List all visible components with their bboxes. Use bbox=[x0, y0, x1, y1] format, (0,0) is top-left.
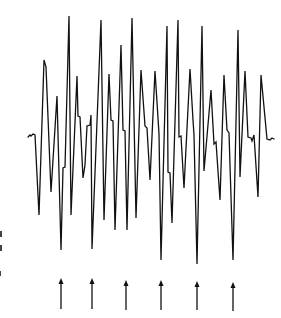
edge-mark bbox=[0, 245, 2, 251]
up-arrow-icon bbox=[231, 282, 236, 311]
edge-mark bbox=[0, 271, 1, 276]
up-arrow-icon bbox=[90, 278, 95, 309]
up-arrow-icon bbox=[159, 280, 164, 310]
edge-marks bbox=[0, 231, 2, 276]
trough-markers bbox=[59, 278, 236, 311]
up-arrow-icon bbox=[59, 278, 64, 309]
edge-mark bbox=[0, 231, 2, 237]
waveform-figure bbox=[0, 0, 281, 318]
up-arrow-icon bbox=[124, 280, 129, 310]
waveform-trace bbox=[28, 16, 274, 264]
up-arrow-icon bbox=[195, 281, 200, 310]
